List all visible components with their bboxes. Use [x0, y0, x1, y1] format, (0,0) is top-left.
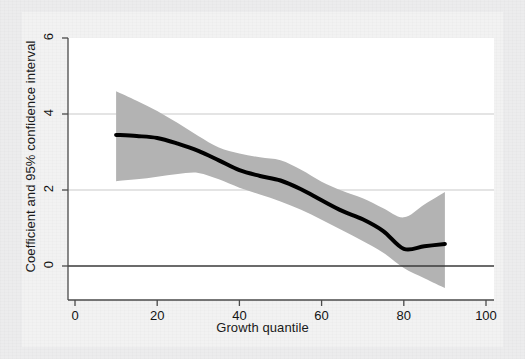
x-axis-tick-label: 20	[137, 308, 177, 323]
chart-screenshot: Coefficient and 95% confidence interval …	[0, 0, 525, 359]
y-axis-tick-label: 6	[41, 25, 56, 49]
x-axis-tick-label: 0	[55, 308, 95, 323]
x-axis-tick-label: 100	[466, 308, 506, 323]
y-axis-tick-label: 0	[41, 253, 56, 277]
y-axis-tick-label: 2	[41, 177, 56, 201]
x-axis-tick-label: 40	[219, 308, 259, 323]
x-axis-tick-label: 80	[384, 308, 424, 323]
x-axis-tick-label: 60	[302, 308, 342, 323]
y-axis-title: Coefficient and 95% confidence interval	[23, 43, 38, 273]
y-axis-tick-label: 4	[41, 101, 56, 125]
coefficient-quantile-chart	[0, 0, 525, 359]
